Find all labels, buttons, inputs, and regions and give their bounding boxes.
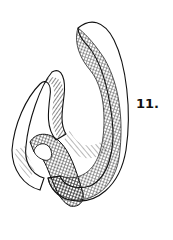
ribbon-small-hole: [34, 144, 52, 161]
ribbon-inner-curve-hatch: [64, 130, 108, 158]
figure-number-label: 11.: [136, 96, 159, 111]
